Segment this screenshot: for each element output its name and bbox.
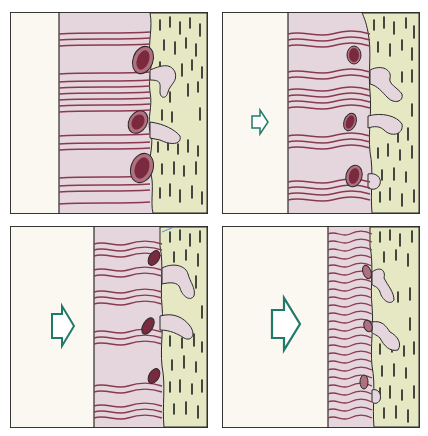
panel-1-illustration xyxy=(10,12,208,214)
panel-top-left xyxy=(10,12,208,214)
panel-top-right xyxy=(222,12,420,214)
panel-2-illustration xyxy=(222,12,420,214)
panel-bottom-right xyxy=(222,226,420,428)
panel-4-illustration xyxy=(222,226,420,428)
panel-3-illustration xyxy=(10,226,208,428)
panel-bottom-left xyxy=(10,226,208,428)
